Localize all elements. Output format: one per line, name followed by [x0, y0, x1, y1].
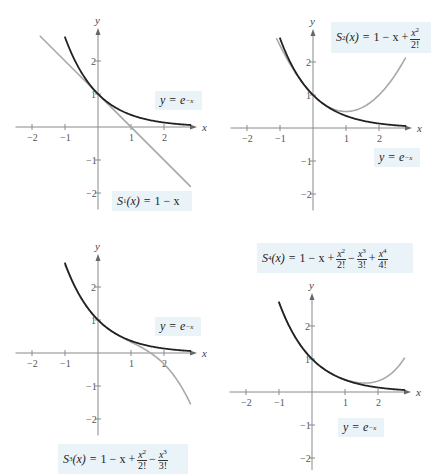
fraction-term-3: x44!: [378, 246, 388, 270]
label-rhs: 1 − x +: [101, 452, 136, 467]
label-eq: =: [388, 150, 395, 165]
y-axis-label: y: [309, 15, 315, 27]
y-tick-label: −1: [86, 155, 97, 166]
x-tick-label: −2: [241, 397, 252, 408]
label-rhs: 1 − x +: [300, 251, 335, 266]
x-tick-label: −1: [60, 358, 71, 369]
label-exponent: −x: [368, 424, 376, 432]
label-eq: =: [90, 452, 97, 467]
exp-label-panel-1: y=e−x: [155, 91, 202, 110]
label-lhs: y: [160, 93, 165, 108]
label-arg: (x): [73, 452, 86, 467]
label-exponent: −x: [185, 97, 193, 105]
y-axis-label: y: [308, 279, 314, 291]
s1-label: S1(x)=1 − x: [112, 191, 192, 211]
y-axis-arrow-icon: [96, 254, 101, 261]
denominator: 3!: [159, 461, 167, 471]
plot-panel-4: xy−2−11221−1−2: [230, 279, 422, 470]
label-eq: =: [363, 30, 370, 45]
y-axis-arrow-icon: [311, 29, 316, 36]
exp-label-panel-3: y=e−x: [155, 317, 201, 336]
operator: +: [369, 251, 376, 266]
y-tick-label: 2: [91, 56, 96, 67]
y-axis-arrow-icon: [310, 293, 315, 300]
y-tick-label: −2: [86, 414, 97, 425]
y-tick-label: −1: [300, 420, 311, 431]
exp-curve: [65, 37, 190, 125]
x-tick-label: −1: [275, 133, 286, 144]
exp-label-panel-2: y=e−x: [374, 148, 420, 167]
fraction-term-1: x22!: [336, 246, 346, 270]
y-tick-label: −1: [301, 156, 312, 167]
label-eq: =: [289, 251, 296, 266]
s1-curve: [40, 36, 190, 186]
exp-label-panel-4: y=e−x: [338, 418, 384, 437]
label-rhs: 1 − x +: [374, 30, 409, 45]
label-lhs: y: [379, 150, 384, 165]
denominator: 2!: [411, 40, 419, 50]
s2-label: S2(x)=1 − x + x22!: [331, 22, 431, 53]
x-axis-label: x: [415, 386, 421, 398]
y-axis-arrow-icon: [96, 28, 101, 35]
x-tick-label: 1: [129, 132, 134, 143]
label-eq: =: [169, 319, 176, 334]
y-axis-label: y: [94, 14, 100, 26]
operator: −: [149, 452, 156, 467]
power: 3: [362, 247, 366, 255]
power: 2: [143, 448, 147, 456]
y-tick-label: −1: [86, 381, 97, 392]
y-tick-label: −2: [86, 188, 97, 199]
y-tick-label: 2: [306, 57, 311, 68]
x-tick-label: −1: [274, 397, 285, 408]
denominator: 4!: [378, 260, 386, 270]
power: 2: [416, 26, 420, 34]
fraction-term-1: x22!: [410, 25, 420, 49]
x-tick-label: −1: [60, 132, 71, 143]
s4-label: S4(x)=1 − x + x22! − x33! + x44!: [257, 243, 413, 273]
power: 2: [342, 247, 346, 255]
plot-panel-3: xy−2−11221−1−2: [16, 240, 208, 436]
x-axis-label: x: [201, 121, 207, 133]
s3-label: S3(x)=1 − x + x22! − x33!: [58, 444, 188, 474]
x-tick-label: −2: [242, 133, 253, 144]
exp-curve: [65, 263, 190, 351]
label-exponent: −x: [404, 154, 412, 162]
x-tick-label: 1: [129, 358, 134, 369]
operator: −: [348, 251, 355, 266]
fraction-term-2: x33!: [357, 246, 367, 270]
label-rhs: 1 − x: [155, 194, 180, 209]
x-axis-label: x: [201, 347, 207, 359]
denominator: 3!: [358, 260, 366, 270]
y-tick-label: −2: [301, 189, 312, 200]
y-tick-label: −2: [300, 453, 311, 464]
denominator: 2!: [138, 461, 146, 471]
x-tick-label: 2: [377, 133, 382, 144]
x-tick-label: 1: [344, 133, 349, 144]
fraction-term-2: x33!: [158, 447, 168, 471]
x-tick-label: 2: [376, 397, 381, 408]
y-axis-label: y: [94, 240, 100, 252]
power: 4: [383, 247, 387, 255]
label-lhs: y: [160, 319, 165, 334]
fraction-term-1: x22!: [137, 447, 147, 471]
label-eq: =: [144, 194, 151, 209]
x-tick-label: 1: [343, 397, 348, 408]
x-tick-label: −2: [27, 132, 38, 143]
label-exponent: −x: [185, 323, 193, 331]
power: 3: [163, 448, 167, 456]
label-arg: (x): [346, 30, 359, 45]
label-lhs: y: [343, 420, 348, 435]
label-arg: (x): [127, 194, 140, 209]
label-arg: (x): [272, 251, 285, 266]
y-tick-label: 2: [305, 321, 310, 332]
plot-panel-1: xy−2−11221−1−2: [16, 14, 208, 210]
label-eq: =: [352, 420, 359, 435]
denominator: 2!: [337, 260, 345, 270]
x-tick-label: −2: [27, 358, 38, 369]
y-tick-label: 2: [91, 282, 96, 293]
x-axis-label: x: [416, 122, 422, 134]
x-tick-label: 2: [162, 132, 167, 143]
label-eq: =: [169, 93, 176, 108]
